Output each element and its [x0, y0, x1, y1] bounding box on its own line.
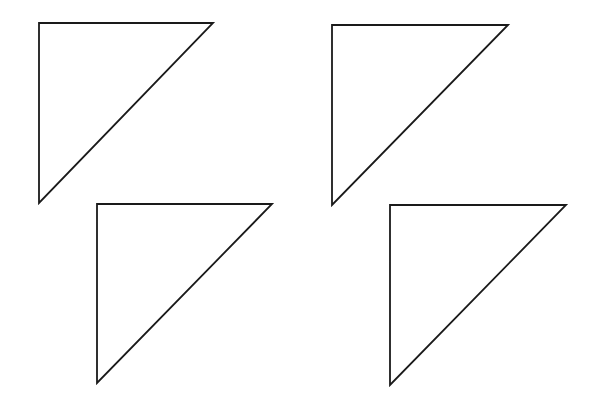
triangle-top-left [39, 23, 213, 203]
diagram-canvas [0, 0, 599, 400]
triangle-top-right [332, 25, 508, 205]
triangle-bottom-right [390, 205, 566, 385]
triangle-bottom-left [97, 204, 272, 383]
